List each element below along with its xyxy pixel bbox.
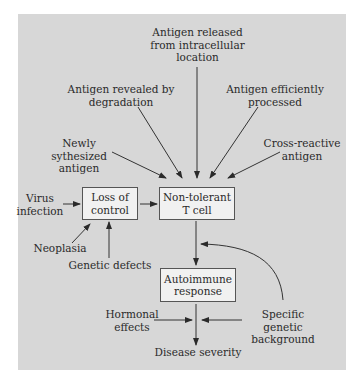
node-autoimmune-response: Autoimmune response — [160, 268, 236, 302]
node-loss-of-control: Loss of control — [82, 187, 138, 220]
node-specific-genetic-background: Specific genetic background — [242, 308, 324, 346]
node-hormonal-effects: Hormonal effects — [104, 308, 160, 333]
node-antigen-released: Antigen released from intracellular loca… — [150, 26, 245, 64]
node-cross-reactive: Cross-reactive antigen — [262, 137, 342, 162]
arrow-neoplasia-to-loss — [72, 224, 90, 243]
node-antigen-processed: Antigen efficiently processed — [225, 83, 325, 108]
node-virus-infection: Virus infection — [14, 192, 66, 217]
node-genetic-defects: Genetic defects — [66, 259, 154, 272]
node-antigen-revealed: Antigen revealed by degradation — [66, 83, 176, 108]
node-neoplasia: Neoplasia — [30, 242, 90, 255]
node-non-tolerant-t-cell: Non-tolerant T cell — [159, 187, 235, 220]
node-disease-severity: Disease severity — [150, 346, 246, 359]
arrow-processed-to-tcell — [210, 107, 258, 178]
node-newly-synthesized: Newly sythesized antigen — [34, 137, 124, 175]
